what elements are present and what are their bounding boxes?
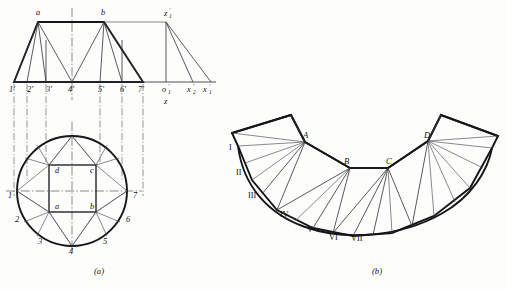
development-label-C: C [386,156,392,166]
top-view-label-c: c [90,166,94,175]
svg-text:1: 1 [168,89,171,95]
true-length-hypotenuse-1 [166,22,211,82]
top-view-label-6: 6 [126,215,131,224]
svg-text:o: o [162,85,166,94]
development-label-V: V [307,225,313,234]
front-view-triangulation-lines [14,22,143,82]
development-label-III: III [248,191,256,200]
development-fan-B [277,168,350,233]
development-label-VI: VI [329,233,338,242]
development-right-plate [428,115,498,141]
true-length-diagram-group: z ′ 1 o ′ 1 x ′ 2 x ′ 1 z [162,7,212,106]
development-label-B: B [344,156,350,166]
true-length-label-x1prime: x ′ 1 [202,83,212,95]
svg-text:1: 1 [169,13,172,19]
front-view-label-2prime: 2' [27,85,33,94]
true-length-label-z: z [163,97,168,106]
development-label-D: D [423,130,431,140]
development-group: A B C D I II III IV V VI VII [229,115,498,243]
development-label-VII: VII [351,234,363,243]
top-view-label-1: 1 [8,191,12,200]
true-length-label-z1prime: z ′ 1 [163,7,172,19]
development-label-I: I [229,143,232,152]
svg-text:1: 1 [209,89,212,95]
development-label-II: II [236,168,242,177]
development-outer-boundary [232,115,498,236]
svg-text:x: x [186,85,191,94]
top-view-label-7: 7 [133,191,138,200]
front-view-label-4prime: 4' [68,85,74,94]
true-length-label-x2prime: x ′ 2 [186,83,196,95]
top-view-label-a: a [55,202,59,211]
svg-text:x: x [202,85,207,94]
caption-a: (a) [94,266,104,276]
top-view-label-d: d [55,166,60,175]
front-view-label-b: b [101,8,105,17]
true-length-label-o1prime: o ′ 1 [162,83,171,95]
development-fan-C [333,168,412,236]
development-label-A: A [302,130,309,140]
development-label-IV: IV [280,210,289,219]
front-view-label-6prime: 6' [120,85,126,94]
top-view-group: d c a b 1 2 3 4 5 6 7 [6,122,142,256]
development-bottom-arc [238,146,492,235]
svg-text:2: 2 [193,89,196,95]
front-view-label-5prime: 5' [98,85,104,94]
development-seam-CD [388,141,428,168]
top-view-label-4: 4 [69,247,73,256]
top-view-label-2: 2 [15,215,19,224]
top-view-label-5: 5 [103,237,107,246]
top-view-label-3: 3 [37,237,42,246]
projection-lines-group [14,84,143,196]
engineering-drawing-canvas: a b 1' 2' 3' 4' 5' 6' 7' z ′ 1 [0,0,507,289]
front-view-group: a b 1' 2' 3' 4' 5' 6' 7' [9,8,216,100]
caption-b: (b) [372,266,382,276]
front-view-label-a: a [36,8,40,17]
figure-root: a b 1' 2' 3' 4' 5' 6' 7' z ′ 1 [0,0,507,289]
development-left-plate [232,115,305,142]
top-view-label-b: b [90,202,94,211]
svg-text:z: z [163,9,168,18]
